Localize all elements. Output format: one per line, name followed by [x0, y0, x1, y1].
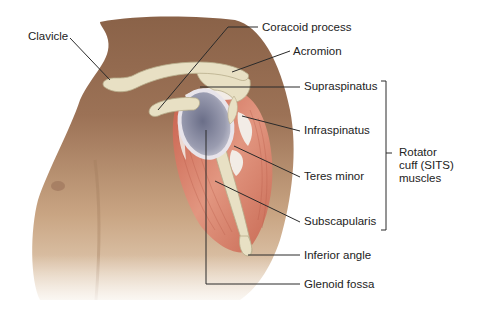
rotator-cuff-bracket	[381, 81, 392, 230]
label-inferior-angle: Inferior angle	[304, 249, 371, 262]
label-rotator-cuff-group: Rotator cuff (SITS) muscles	[399, 146, 454, 185]
label-acromion: Acromion	[293, 45, 342, 58]
label-coracoid-process: Coracoid process	[262, 21, 351, 34]
label-supraspinatus: Supraspinatus	[304, 80, 378, 93]
label-glenoid-fossa: Glenoid fossa	[304, 278, 374, 291]
label-clavicle: Clavicle	[28, 30, 68, 43]
label-subscapularis: Subscapularis	[304, 215, 376, 228]
label-infraspinatus: Infraspinatus	[304, 124, 370, 137]
shoulder-anatomy-diagram: Clavicle Coracoid process Acromion Supra…	[0, 0, 479, 311]
label-teres-minor: Teres minor	[304, 170, 364, 183]
nipple	[51, 181, 65, 191]
